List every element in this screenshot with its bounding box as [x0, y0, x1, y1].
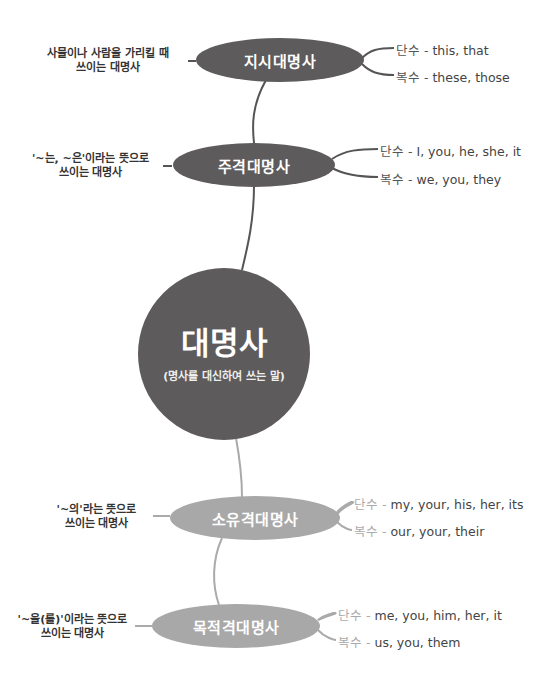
singular-item: 단수 - I, you, he, she, it: [380, 141, 521, 160]
plural-item: 복수 - these, those: [396, 67, 510, 86]
plural-item: 복수 - we, you, they: [380, 169, 501, 188]
node-description: '~는, ~은'이라는 뜻으로 쓰이는 대명사: [18, 152, 163, 180]
center-title: 대명사: [181, 325, 268, 361]
node-description: 사물이나 사람을 가리킬 때 쓰이는 대명사: [28, 47, 188, 75]
singular-item: 단수 - me, you, him, her, it: [338, 605, 502, 624]
plural-item: 복수 - us, you, them: [338, 632, 460, 651]
node-label: 목적격대명사: [193, 616, 280, 637]
node-label: 주격대명사: [218, 155, 291, 176]
node-label: 소유격대명사: [212, 508, 299, 529]
singular-item: 단수 - this, that: [396, 40, 489, 59]
center-node: 대명사 (명사를 대신하여 쓰는 말): [138, 268, 310, 440]
plural-item: 복수 - our, your, their: [354, 521, 484, 540]
node-possessive: 소유격대명사: [170, 496, 340, 540]
node-demonstrative: 지시대명사: [196, 38, 364, 82]
node-label: 지시대명사: [244, 50, 317, 71]
center-subtitle: (명사를 대신하여 쓰는 말): [163, 367, 285, 383]
singular-item: 단수 - my, your, his, her, its: [354, 494, 523, 513]
node-description: '~을(를)'이라는 뜻으로 쓰이는 대명사: [10, 613, 135, 641]
node-objective: 목적격대명사: [152, 604, 320, 648]
node-subjective: 주격대명사: [173, 143, 335, 187]
node-description: '~의'라는 뜻으로 쓰이는 대명사: [40, 503, 153, 531]
